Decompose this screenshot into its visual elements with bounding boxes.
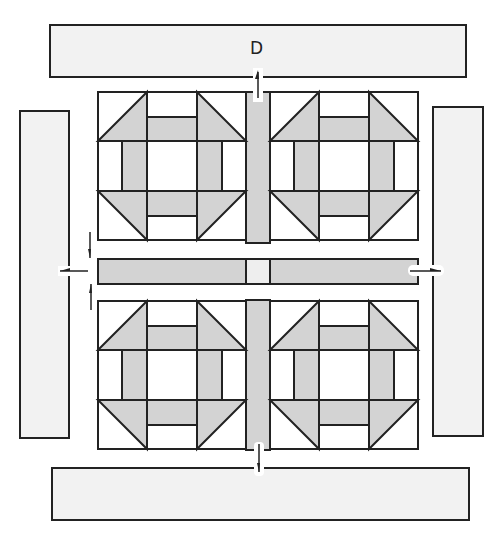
churn-dash-block-bottom-left <box>98 301 246 449</box>
vertical-sashing-bottom <box>246 300 270 450</box>
arrow-left-icon <box>58 266 90 276</box>
horizontal-sashing-row <box>98 259 418 284</box>
cornerstone-square <box>246 259 270 284</box>
arrow-down-into-sashing-icon <box>88 232 91 258</box>
churn-dash-block-bottom-right <box>270 301 418 449</box>
churn-dash-block-top-right <box>270 92 418 240</box>
arrow-up-icon <box>253 68 263 102</box>
quilt-center-diagram <box>0 0 504 543</box>
arrow-right-icon <box>408 265 444 276</box>
churn-dash-block-top-left <box>98 92 246 240</box>
arrow-down-icon <box>254 442 264 476</box>
vertical-sashing-top <box>246 92 270 243</box>
arrow-up-into-sashing-icon <box>89 284 92 310</box>
